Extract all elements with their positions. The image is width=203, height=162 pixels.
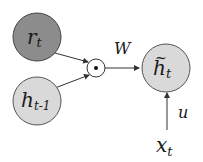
edge-label-u: u: [178, 103, 188, 122]
diagram-canvas: rt ht-1 W ~ ht u xt: [0, 0, 203, 162]
dot-operator-icon: [94, 66, 98, 70]
edge-hprev-to-mult: [55, 75, 89, 88]
node-h-tilde: ~ ht: [142, 44, 190, 92]
node-h-prev: ht-1: [13, 77, 61, 125]
node-r-t: rt: [13, 13, 61, 61]
input-x-t: xt: [156, 133, 173, 159]
edge-label-w: W: [114, 39, 132, 58]
edge-rt-to-mult: [55, 53, 88, 62]
node-elementwise-multiply: [87, 59, 105, 77]
